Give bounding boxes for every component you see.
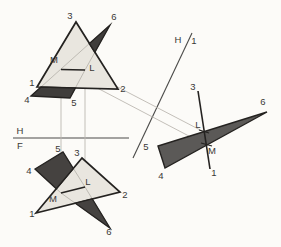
label-front-3: 3 (74, 147, 79, 158)
top-intersection-line-ml (61, 70, 85, 71)
label-top-1: 1 (29, 77, 34, 88)
label-fold-h1-h: H (175, 34, 182, 45)
label-aux-5: 5 (143, 141, 148, 152)
label-fold-hf-h: H (17, 125, 24, 136)
label-top-5: 5 (71, 97, 76, 108)
top-456-visible-sliver (89, 25, 110, 52)
top-456-visible-quad (31, 87, 75, 98)
label-aux-l: L (195, 119, 200, 130)
label-aux-3: 3 (190, 81, 195, 92)
label-top-3: 3 (67, 10, 72, 21)
label-front-1: 1 (29, 208, 34, 219)
label-top-l: L (89, 62, 94, 73)
label-top-6: 6 (111, 11, 116, 22)
label-aux-6: 6 (260, 96, 265, 107)
projection-drawing: 36ML1245HF534L2M16H1365LM41 (0, 0, 281, 247)
label-top-4: 4 (24, 94, 29, 105)
label-fold-hf-f: F (17, 140, 23, 151)
label-front-6: 6 (106, 226, 111, 237)
label-fold-h1-1: 1 (191, 35, 196, 46)
figure-canvas: 36ML1245HF534L2M16H1365LM41 (0, 0, 281, 247)
label-aux-4: 4 (158, 170, 163, 181)
aux-triangle-456 (158, 112, 267, 168)
label-front-2: 2 (122, 189, 127, 200)
label-top-m: M (50, 54, 58, 65)
label-aux-1: 1 (211, 167, 216, 178)
label-front-m: M (49, 193, 57, 204)
label-top-2: 2 (120, 83, 125, 94)
label-aux-m: M (208, 145, 216, 156)
front-456-visible-sliver (75, 199, 110, 228)
label-front-4: 4 (26, 165, 31, 176)
label-front-5: 5 (55, 143, 60, 154)
label-front-l: L (85, 176, 90, 187)
